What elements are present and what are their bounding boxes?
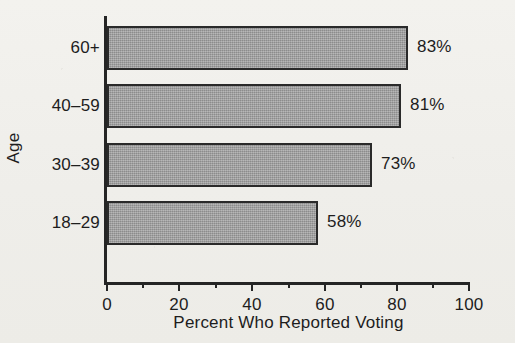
x-tick-40 — [251, 282, 253, 291]
y-axis-label-40-59: 40–59 — [30, 96, 100, 116]
x-axis-label-20: 20 — [169, 295, 188, 315]
x-axis-label-40: 40 — [242, 295, 261, 315]
x-tick-minor-30 — [215, 282, 217, 288]
plot-area: 83% 81% 73% 58% 0 20 40 60 80 100 — [107, 16, 470, 282]
x-tick-minor-90 — [432, 282, 434, 288]
bar-60plus — [107, 26, 408, 70]
x-axis-label-100: 100 — [455, 295, 484, 315]
x-tick-80 — [396, 282, 398, 291]
x-axis-title: Percent Who Reported Voting — [107, 313, 470, 333]
bar-value-60plus: 83% — [417, 37, 452, 57]
y-axis-label-60plus: 60+ — [30, 38, 100, 58]
y-axis-title: Age — [4, 113, 24, 183]
x-tick-0 — [106, 282, 108, 291]
bar-value-18-29: 58% — [327, 212, 362, 232]
y-axis-tick-labels: 60+ 40–59 30–39 18–29 — [30, 0, 100, 343]
x-tick-60 — [324, 282, 326, 291]
chart-figure: Age 60+ 40–59 30–39 18–29 83% 81% 73% 58… — [0, 0, 515, 343]
bar-40-59 — [107, 84, 401, 128]
bar-30-39 — [107, 143, 372, 187]
x-tick-minor-50 — [288, 282, 290, 288]
x-tick-100 — [468, 282, 470, 291]
bar-value-40-59: 81% — [410, 95, 445, 115]
bar-value-30-39: 73% — [381, 154, 416, 174]
x-axis-label-0: 0 — [102, 295, 112, 315]
bar-18-29 — [107, 201, 318, 245]
x-axis-label-80: 80 — [387, 295, 406, 315]
x-tick-minor-70 — [360, 282, 362, 288]
x-tick-minor-10 — [142, 282, 144, 288]
y-axis-label-30-39: 30–39 — [30, 155, 100, 175]
x-axis-line — [104, 282, 470, 285]
x-axis-label-60: 60 — [315, 295, 334, 315]
x-tick-20 — [178, 282, 180, 291]
y-axis-label-18-29: 18–29 — [30, 213, 100, 233]
